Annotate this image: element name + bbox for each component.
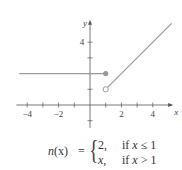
piecewise-chart: −4−2244xy <box>0 0 182 130</box>
x-axis-arrow-icon <box>168 103 173 107</box>
series-line-2 <box>107 23 171 87</box>
case-1: 2,if x ≤ 1 <box>98 138 156 153</box>
case-2: x,if x > 1 <box>98 153 156 168</box>
filled-endpoint-dot <box>103 71 108 76</box>
case-1-condition: if x ≤ 1 <box>122 138 156 152</box>
equals-sign: = <box>78 144 85 159</box>
case-2-condition: if x > 1 <box>122 153 156 167</box>
x-tick-label: −2 <box>54 109 64 119</box>
equation-lhs: n(x) <box>48 144 68 159</box>
x-tick-label: 4 <box>151 109 156 119</box>
case-2-value: x, <box>98 153 122 168</box>
brace-symbol: { <box>89 135 98 165</box>
x-tick-label: −4 <box>22 109 32 119</box>
x-axis-label: x <box>173 107 178 117</box>
case-1-value: 2, <box>98 138 122 153</box>
y-tick-label: 4 <box>80 37 85 47</box>
piecewise-equation: n(x) = { 2,if x ≤ 1 x,if x > 1 <box>48 137 168 169</box>
y-axis-label: y <box>82 18 87 28</box>
x-tick-label: 2 <box>119 109 124 119</box>
y-axis-arrow-icon <box>88 20 92 25</box>
open-endpoint-circle <box>103 87 108 92</box>
